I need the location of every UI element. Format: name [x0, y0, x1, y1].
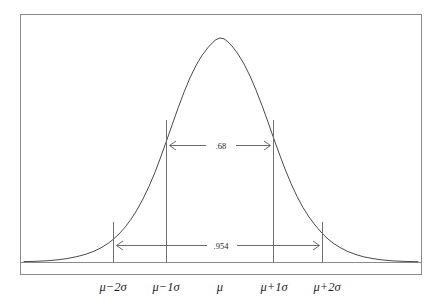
x-tick-label-mu-minus-2-sigma: μ−2σ [98, 280, 127, 294]
two-sigma-value: .954 [214, 241, 230, 251]
one-sigma-arrow: .68 [170, 141, 271, 151]
x-tick-label-mu-plus-2-sigma: μ+2σ [312, 280, 341, 294]
normal-distribution-figure: .68 .954 μ−2σ μ−1σ μ μ+1σ μ+2σ [0, 0, 438, 307]
distribution-chart: .68 .954 μ−2σ μ−1σ μ μ+1σ μ+2σ [0, 0, 438, 307]
x-tick-label-mu-minus-1-sigma: μ−1σ [151, 280, 180, 294]
one-sigma-value: .68 [216, 141, 227, 151]
x-tick-label-mu-plus-1-sigma: μ+1σ [259, 280, 288, 294]
x-tick-label-mu: μ [216, 280, 223, 294]
two-sigma-arrow: .954 [117, 241, 320, 251]
